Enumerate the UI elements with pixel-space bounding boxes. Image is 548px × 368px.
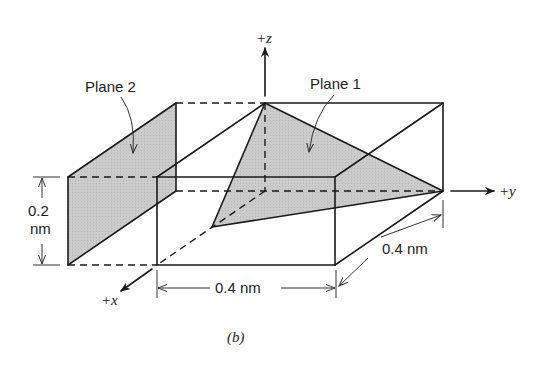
x-axis-label: +x — [101, 292, 118, 308]
figure-caption: (b) — [227, 329, 245, 346]
depth-dimension-label: 0.4 nm — [382, 240, 428, 257]
x-axis-arrow — [121, 269, 152, 291]
unit-cell-diagram: +z +y +x Plane 2 Plane 1 0.2 nm 0.4 nm 0… — [0, 0, 548, 368]
plane-2-shape — [68, 103, 176, 265]
height-dimension-unit: nm — [30, 220, 51, 237]
y-axis-label: +y — [499, 183, 516, 199]
height-dimension-value: 0.2 — [28, 202, 49, 219]
plane-2-label: Plane 2 — [85, 78, 136, 95]
width-dimension-label: 0.4 nm — [215, 279, 261, 296]
plane-1-label: Plane 1 — [310, 75, 361, 92]
z-axis-label: +z — [256, 30, 272, 46]
